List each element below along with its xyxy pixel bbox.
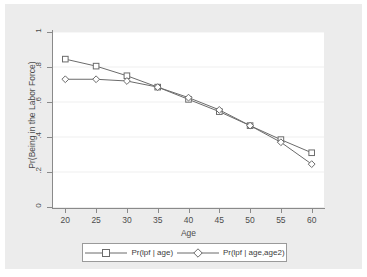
y-tick [47, 102, 52, 103]
data-point-marker [309, 150, 315, 156]
series-line-1 [65, 79, 311, 164]
x-tick-label: 35 [146, 215, 170, 225]
y-axis-title: Pr(Being in the Labor Force) [27, 35, 37, 195]
plot-area [53, 32, 324, 207]
x-tick [96, 209, 97, 213]
legend-label-1: Pr(lpf | age,age2) [223, 248, 285, 257]
data-point-marker [93, 76, 100, 83]
x-tick [158, 209, 159, 213]
figure-margin-left [0, 0, 5, 277]
chart-figure: 0.2.4.6.81 202530354045505560 Age Pr(Bei… [0, 0, 367, 277]
figure-margin-top [0, 0, 367, 4]
x-tick [189, 209, 190, 213]
x-tick-label: 60 [300, 215, 324, 225]
plot-svg [53, 32, 324, 207]
x-tick-label: 55 [269, 215, 293, 225]
y-axis-line [52, 30, 53, 209]
x-tick-label: 50 [238, 215, 262, 225]
y-tick [47, 172, 52, 173]
x-tick-label: 25 [84, 215, 108, 225]
data-point-marker [93, 63, 99, 69]
x-tick [219, 209, 220, 213]
y-tick [47, 67, 52, 68]
legend-entry-1[interactable]: Pr(lpf | age,age2) [176, 247, 285, 259]
diamond-marker-icon [176, 247, 220, 259]
x-tick [281, 209, 282, 213]
x-tick [250, 209, 251, 213]
y-tick [47, 207, 52, 208]
data-point-marker [62, 76, 69, 83]
x-tick [65, 209, 66, 213]
x-axis-title: Age [53, 228, 324, 238]
y-tick-label: 1 [32, 26, 44, 35]
square-marker-icon [84, 247, 128, 259]
x-tick-label: 45 [207, 215, 231, 225]
y-tick [47, 137, 52, 138]
figure-margin-right [362, 0, 367, 277]
x-tick [312, 209, 313, 213]
x-tick-label: 30 [115, 215, 139, 225]
y-tick [47, 32, 52, 33]
x-tick [127, 209, 128, 213]
figure-margin-bottom [0, 269, 367, 277]
chart-legend: Pr(lpf | age) Pr(lpf | age,age2) [82, 243, 287, 262]
legend-label-0: Pr(lpf | age) [131, 248, 173, 257]
y-tick-label: 0 [32, 201, 44, 210]
x-tick-label: 20 [53, 215, 77, 225]
legend-entry-0[interactable]: Pr(lpf | age) [84, 247, 173, 259]
x-tick-label: 40 [177, 215, 201, 225]
data-point-marker [308, 161, 315, 168]
data-point-marker [63, 56, 69, 62]
